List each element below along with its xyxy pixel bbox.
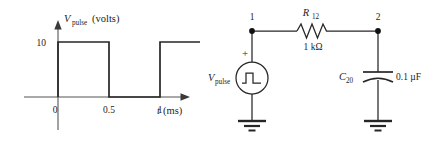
y-axis-title-units: (volts) <box>92 13 120 25</box>
circuit-svg: 1 2 R 12 1 kΩ + V pulse <box>200 0 434 145</box>
node-label-1: 1 <box>250 12 255 22</box>
source-circle <box>236 62 268 94</box>
source-polarity-plus: + <box>242 47 248 59</box>
node-label-2: 2 <box>376 12 381 22</box>
resistor-label-subscript: 12 <box>312 13 320 21</box>
figure-container: 10 0 0.5 1 V pulse (volts) t (ms) <box>0 0 434 145</box>
resistor-label-main: R <box>302 7 310 18</box>
x-tick-label-0.5: 0.5 <box>103 105 115 115</box>
capacitor-label-subscript: 20 <box>346 77 354 85</box>
node-dot-2 <box>375 28 381 34</box>
ground-icon-capacitor <box>364 121 392 131</box>
pulse-waveform-plot: 10 0 0.5 1 V pulse (volts) t (ms) <box>0 0 217 145</box>
y-tick-label-10: 10 <box>37 38 47 48</box>
y-axis-title-main: V <box>64 13 72 24</box>
source-label-subscript: pulse <box>215 78 230 86</box>
pulse-trace <box>58 42 200 97</box>
rc-circuit-schematic: 1 2 R 12 1 kΩ + V pulse <box>200 0 434 145</box>
waveform-svg: 10 0 0.5 1 V pulse (volts) t (ms) <box>0 0 217 145</box>
x-axis-arrowhead <box>181 93 191 100</box>
source-label: V pulse <box>208 72 230 86</box>
y-axis-arrowhead <box>54 20 61 30</box>
resistor-value: 1 kΩ <box>304 42 323 52</box>
capacitor-value: 0.1 µF <box>396 72 421 82</box>
x-axis-title-units: (ms) <box>163 105 183 117</box>
capacitor-label: C 20 <box>339 71 354 85</box>
x-tick-label-0: 0 <box>53 105 58 115</box>
y-axis-title: V pulse (volts) <box>64 13 120 27</box>
resistor-zigzag-icon <box>297 24 330 38</box>
ground-icon-source <box>238 121 266 131</box>
y-axis-title-subscript: pulse <box>72 19 87 27</box>
resistor-label: R 12 <box>302 7 320 21</box>
node-dot-1 <box>249 28 255 34</box>
